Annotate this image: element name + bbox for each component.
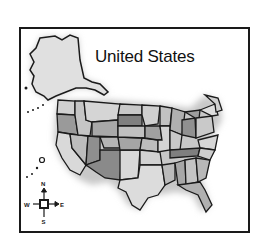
- compass-rose: [33, 188, 59, 217]
- compass-east-label: E: [60, 202, 64, 208]
- compass-north-label: N: [41, 181, 45, 187]
- compass-west-label: W: [24, 202, 30, 208]
- compass-south-label: S: [42, 219, 46, 225]
- contiguous-states: [56, 95, 222, 212]
- us-map: N S W E: [0, 0, 265, 250]
- map-title: United States: [95, 47, 194, 67]
- hawaii: [26, 158, 45, 179]
